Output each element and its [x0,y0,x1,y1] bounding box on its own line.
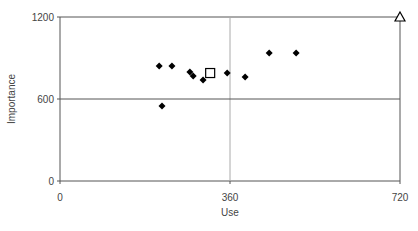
x-axis-label: Use [221,207,239,218]
diamond-marker [168,63,175,70]
diamond-marker [293,50,300,57]
y-axis-label: Importance [6,74,17,124]
data-points [156,12,405,109]
y-tick-label: 600 [37,94,54,105]
scatter-chart: 06001200 0360720 Importance Use [0,0,418,231]
reference-lines [60,17,400,181]
diamond-marker [159,102,166,109]
x-axis-ticks: 0360720 [57,181,409,203]
diamond-marker [266,50,273,57]
diamond-marker [156,63,163,70]
y-tick-label: 1200 [32,12,55,23]
y-tick-label: 0 [48,176,54,187]
square-marker [206,69,215,78]
diamond-marker [242,73,249,80]
x-tick-label: 360 [222,192,239,203]
x-tick-label: 720 [392,192,409,203]
x-tick-label: 0 [57,192,63,203]
y-axis-ticks: 06001200 [32,12,60,187]
